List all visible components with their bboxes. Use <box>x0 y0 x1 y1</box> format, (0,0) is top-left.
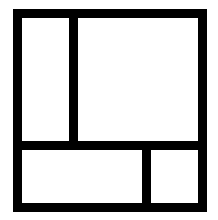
frame-right-edge <box>198 9 207 212</box>
partitioned-square-diagram <box>0 0 218 220</box>
top-left-vertical-divider <box>69 9 78 150</box>
frame-top-edge <box>13 9 207 18</box>
horizontal-divider <box>13 141 207 150</box>
frame-bottom-edge <box>13 203 207 212</box>
bottom-right-vertical-divider <box>142 141 151 212</box>
frame-left-edge <box>13 9 22 212</box>
